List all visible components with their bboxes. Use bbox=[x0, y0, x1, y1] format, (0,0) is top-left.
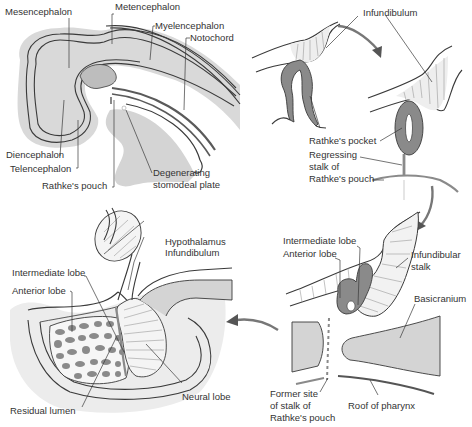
panel-b-rathkes-pocket: Infundibulum Rathke's pocket Regressing … bbox=[252, 7, 462, 200]
label-rathkes-pouch-b: Rathke's pouch bbox=[309, 173, 374, 184]
label-neural-lobe: Neural lobe bbox=[182, 391, 231, 402]
panel-c-separated-pituitary: Intermediate lobe Anterior lobe Infundib… bbox=[270, 212, 466, 423]
panel-d-mature-pituitary: Hypothalamus Infundibulum Intermediate l… bbox=[10, 202, 232, 416]
label-notochord: Notochord bbox=[190, 32, 234, 43]
label-stomodeal-plate: stomodeal plate bbox=[153, 179, 220, 190]
label-rathkes-pouch-c: Rathke's pouch bbox=[270, 412, 335, 423]
label-anterior-lobe-c: Anterior lobe bbox=[283, 248, 337, 259]
label-intermediate-lobe-c: Intermediate lobe bbox=[283, 235, 356, 246]
label-intermediate-lobe-d: Intermediate lobe bbox=[12, 267, 85, 278]
label-anterior-lobe-d: Anterior lobe bbox=[12, 285, 66, 296]
label-mesencephalon: Mesencephalon bbox=[5, 6, 72, 17]
label-rathkes-pouch-a: Rathke's pouch bbox=[42, 180, 107, 191]
pituitary-development-diagram: Mesencephalon Metencephalon Myelencephal… bbox=[0, 0, 472, 427]
label-regressing: Regressing bbox=[309, 149, 357, 160]
label-stalk-of: stalk of bbox=[309, 161, 339, 172]
label-metencephalon: Metencephalon bbox=[115, 1, 180, 12]
label-infundibular: Infundibular bbox=[411, 249, 461, 260]
label-former-site: Former site bbox=[270, 388, 318, 399]
label-basicranium: Basicranium bbox=[414, 293, 466, 304]
label-hypothalamus: Hypothalamus bbox=[165, 236, 226, 247]
label-telencephalon: Telencephalon bbox=[10, 163, 71, 174]
label-roof-of-pharynx: Roof of pharynx bbox=[348, 400, 415, 411]
label-diencephalon: Diencephalon bbox=[6, 149, 64, 160]
label-degenerating: Degenerating bbox=[153, 167, 210, 178]
panel-a-embryonic-head: Mesencephalon Metencephalon Myelencephal… bbox=[5, 1, 240, 191]
label-myelencephalon: Myelencephalon bbox=[155, 20, 224, 31]
label-infundibulum-d: Infundibulum bbox=[165, 247, 219, 258]
label-infundibulum-b: Infundibulum bbox=[363, 7, 417, 18]
label-rathkes-pocket: Rathke's pocket bbox=[309, 135, 377, 146]
arrow-c-to-d bbox=[226, 314, 278, 330]
label-stalk: stalk bbox=[411, 261, 431, 272]
label-of-stalk-of: of stalk of bbox=[270, 400, 311, 411]
label-residual-lumen: Residual lumen bbox=[10, 405, 75, 416]
